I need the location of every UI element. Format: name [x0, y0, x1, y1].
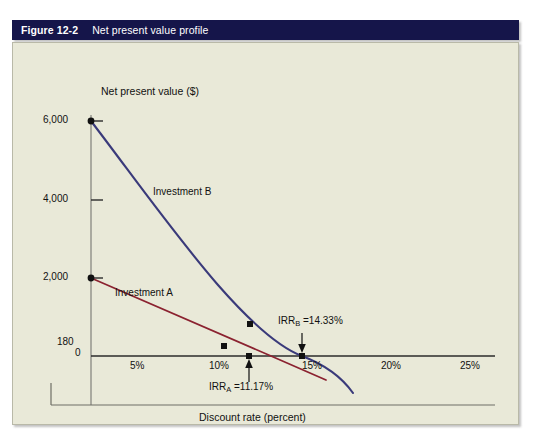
series-investment-b-curve [91, 121, 353, 393]
marker-a-mid [221, 343, 227, 349]
marker-b-mid [247, 321, 253, 327]
y-tick-label-0: 0 [75, 347, 81, 358]
marker-b-intercept [88, 118, 95, 125]
y-tick-label-180: 180 [57, 336, 74, 347]
y-tick-label-4000: 4,000 [43, 193, 68, 204]
figure-panel: Net present value ($) 6,000 4,000 2,000 … [12, 42, 519, 425]
marker-a-intercept [88, 275, 95, 282]
x-axis-title: Discount rate (percent) [199, 411, 306, 423]
figure-page: Figure 12-2 Net present value profile [0, 0, 533, 444]
figure-number: Figure 12-2 [21, 24, 78, 36]
y-tick-label-6000: 6,000 [43, 114, 68, 125]
irr-b-annotation-tail: =14.33% [300, 315, 343, 326]
irr-a-annotation: IRRA =11.17% [209, 381, 273, 394]
figure-12-2: Figure 12-2 Net present value profile [12, 20, 519, 425]
x-tick-label-15: 15% [302, 360, 322, 371]
x-tick-label-20: 20% [381, 360, 401, 371]
marker-a-irr [246, 353, 252, 359]
figure-header-bar: Figure 12-2 Net present value profile [12, 20, 519, 40]
series-label-investment-a: Investment A [115, 287, 173, 298]
irr-b-arrow-head [298, 344, 306, 353]
x-tick-label-25: 25% [460, 360, 480, 371]
x-tick-label-5: 5% [130, 360, 144, 371]
irr-a-annotation-tail: =11.17% [231, 381, 273, 392]
irr-b-annotation: IRRB =14.33% [278, 315, 343, 328]
y-axis-title: Net present value ($) [101, 85, 199, 97]
y-tick-label-2000: 2,000 [43, 271, 68, 282]
irr-a-arrow-head [245, 359, 253, 368]
marker-b-irr [299, 353, 305, 359]
series-label-investment-b: Investment B [153, 186, 211, 197]
x-tick-label-10: 10% [209, 360, 229, 371]
npv-profile-chart: Net present value ($) 6,000 4,000 2,000 … [13, 43, 518, 424]
chart-svg [13, 43, 518, 424]
irr-a-annotation-main: IRR [209, 381, 226, 392]
figure-title: Net present value profile [92, 24, 208, 36]
irr-b-annotation-main: IRR [278, 315, 295, 326]
